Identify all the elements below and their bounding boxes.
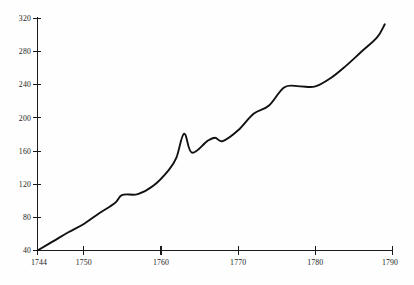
x-tick-label-1790: 1790 xyxy=(382,258,398,267)
chart-plot-area: 40 80 120 160 200 240 280 320 1744 1750 … xyxy=(0,0,414,285)
x-tick-label-1770: 1770 xyxy=(230,258,246,267)
y-tick-label-200: 200 xyxy=(19,114,31,123)
x-tick-labels: 1744 1750 1760 1770 1780 1790 xyxy=(31,258,398,267)
y-tick-label-120: 120 xyxy=(19,180,31,189)
data-series-line xyxy=(38,24,385,250)
line-chart-figure: 40 80 120 160 200 240 280 320 1744 1750 … xyxy=(0,0,414,285)
y-tick-label-280: 280 xyxy=(19,47,31,56)
y-tick-labels: 40 80 120 160 200 240 280 320 xyxy=(19,14,31,255)
x-tick-label-1750: 1750 xyxy=(76,258,92,267)
x-tick-label-1780: 1780 xyxy=(307,258,323,267)
y-tick-label-40: 40 xyxy=(23,246,31,255)
x-tick-label-1744: 1744 xyxy=(31,258,47,267)
y-tick-label-80: 80 xyxy=(23,213,31,222)
y-tick-label-240: 240 xyxy=(19,80,31,89)
x-tick-label-1760: 1760 xyxy=(153,258,169,267)
y-tick-label-160: 160 xyxy=(19,147,31,156)
y-tick-label-320: 320 xyxy=(19,14,31,23)
